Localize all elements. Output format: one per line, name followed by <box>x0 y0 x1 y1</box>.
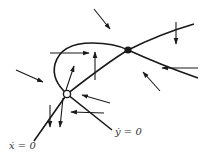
ydot-nullcline-curve <box>67 24 194 130</box>
arrow-4-icon <box>143 72 160 91</box>
xdot-nullcline-label: ẋ = 0 <box>9 140 36 151</box>
arrow-1-icon <box>94 9 110 29</box>
arrow-8-icon <box>16 70 43 82</box>
unstable-node-open-circle <box>63 90 70 97</box>
arrow-9-icon <box>82 95 110 103</box>
saddle-filled-circle <box>124 46 131 53</box>
phase-plane-diagram <box>0 0 208 161</box>
arrow-10-icon <box>71 112 104 113</box>
arrow-7-icon <box>66 66 74 90</box>
ydot-nullcline-label: ẏ = 0 <box>115 126 142 137</box>
vector-field-arrows <box>16 9 198 127</box>
